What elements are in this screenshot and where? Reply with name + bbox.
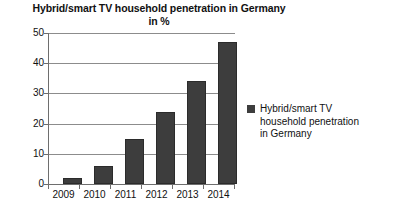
x-axis: 2009 2010 2011 2012 2013 2014 bbox=[48, 189, 235, 205]
legend-swatch-icon bbox=[247, 105, 255, 113]
y-tick-label-0: 0 bbox=[4, 179, 44, 189]
chart-title-line-1: Hybrid/smart TV household penetration in… bbox=[32, 2, 285, 14]
bar-chart: Hybrid/smart TV household penetration in… bbox=[0, 0, 412, 217]
gridline-20 bbox=[48, 124, 235, 125]
legend-label-line-1: Hybrid/smart TV bbox=[260, 103, 359, 116]
chart-title-line-2: in % bbox=[14, 15, 304, 28]
legend-label-line-2: household penetration bbox=[260, 116, 359, 129]
y-axis-line bbox=[48, 33, 49, 185]
plot-area bbox=[48, 33, 235, 185]
bar-2011 bbox=[125, 139, 144, 184]
legend: Hybrid/smart TV household penetration in… bbox=[247, 103, 405, 141]
x-tick-mark-6 bbox=[234, 185, 235, 189]
x-tick-label-2013: 2013 bbox=[174, 189, 201, 201]
x-tick-label-2012: 2012 bbox=[143, 189, 170, 201]
x-tick-label-2010: 2010 bbox=[81, 189, 108, 201]
y-tick-label-50: 50 bbox=[4, 28, 44, 38]
y-tick-label-20: 20 bbox=[4, 119, 44, 129]
gridline-40 bbox=[48, 63, 235, 64]
legend-item-label: Hybrid/smart TV household penetration in… bbox=[260, 103, 359, 141]
bar-2014 bbox=[218, 42, 237, 184]
legend-label-line-3: in Germany bbox=[260, 128, 359, 141]
bar-2009 bbox=[63, 178, 82, 184]
x-tick-label-2011: 2011 bbox=[112, 189, 139, 201]
x-tick-mark-5 bbox=[203, 185, 204, 189]
bar-2013 bbox=[187, 81, 206, 184]
x-tick-mark-1 bbox=[79, 185, 80, 189]
x-tick-label-2014: 2014 bbox=[205, 189, 232, 201]
x-tick-mark-2 bbox=[110, 185, 111, 189]
y-axis: 50 40 30 20 10 0 bbox=[0, 33, 44, 185]
gridline-30 bbox=[48, 93, 235, 94]
chart-title: Hybrid/smart TV household penetration in… bbox=[14, 2, 304, 27]
x-tick-mark-4 bbox=[172, 185, 173, 189]
y-tick-label-10: 10 bbox=[4, 149, 44, 159]
x-tick-mark-3 bbox=[141, 185, 142, 189]
gridline-50 bbox=[48, 33, 235, 34]
bar-2012 bbox=[156, 112, 175, 184]
y-tick-label-30: 30 bbox=[4, 88, 44, 98]
bar-2010 bbox=[94, 166, 113, 184]
x-tick-label-2009: 2009 bbox=[50, 189, 77, 201]
y-tick-label-40: 40 bbox=[4, 58, 44, 68]
x-tick-mark-0 bbox=[48, 185, 49, 189]
